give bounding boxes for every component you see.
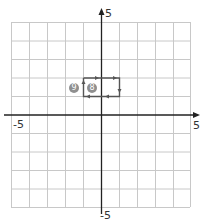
x-axis-arrow-icon	[193, 112, 200, 118]
y-axis-min-label: -5	[100, 209, 111, 222]
axes	[4, 12, 197, 214]
x-axis-min-label: -5	[13, 118, 24, 131]
coordinate-grid	[0, 0, 206, 224]
x-axis-max-label: 5	[193, 119, 200, 132]
y-axis-max-label: 5	[105, 7, 112, 20]
step-badge-9: 9	[69, 83, 79, 93]
y-axis-arrow-icon	[99, 8, 105, 15]
step-badge-8: 8	[87, 83, 97, 93]
